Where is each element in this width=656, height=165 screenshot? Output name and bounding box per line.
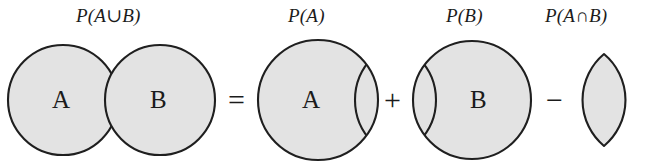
prob-label-union: P(A∪B) xyxy=(76,6,141,25)
prob-label-a: P(A) xyxy=(288,6,325,25)
operator-equals: = xyxy=(228,85,245,115)
intersection-lens xyxy=(583,54,626,146)
venn-diagram-figure: P(A∪B) P(A) P(B) P(A∩B) A B A B = + − xyxy=(0,0,656,165)
prob-label-b: P(B) xyxy=(446,6,483,25)
set-label-union-a: A xyxy=(52,87,70,112)
operator-minus: − xyxy=(546,85,563,115)
set-label-term-a: A xyxy=(302,87,320,112)
union-venn-group xyxy=(8,45,215,155)
operator-plus: + xyxy=(384,85,401,115)
intersection-lens-group xyxy=(583,54,626,146)
set-label-term-b: B xyxy=(470,87,487,112)
set-label-union-b: B xyxy=(150,87,167,112)
prob-label-intersection: P(A∩B) xyxy=(545,6,607,25)
